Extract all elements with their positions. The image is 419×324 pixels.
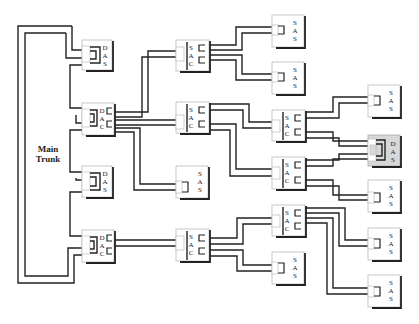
das-node-3-highlighted[interactable]: D A S <box>368 135 401 167</box>
main-trunk-label-line2: Trunk <box>36 154 60 164</box>
sas-node-5[interactable]: S A S <box>368 85 401 118</box>
svg-text:A: A <box>292 27 297 35</box>
svg-text:C: C <box>100 123 105 131</box>
svg-text:A: A <box>102 178 107 186</box>
svg-text:C: C <box>100 250 105 258</box>
sas-node-1[interactable]: S A S <box>176 166 209 199</box>
svg-text:A: A <box>102 52 107 60</box>
svg-text:S: S <box>285 161 289 169</box>
sac-node-1[interactable]: S A C <box>176 40 210 72</box>
sac-node-2[interactable]: S A C <box>176 102 210 134</box>
svg-text:S: S <box>103 186 107 194</box>
svg-text:A: A <box>292 74 297 82</box>
svg-text:S: S <box>285 209 289 217</box>
svg-text:D: D <box>102 170 107 178</box>
das-node-2[interactable]: D A S <box>82 166 113 198</box>
sas-node-8[interactable]: S A S <box>368 275 401 308</box>
svg-text:C: C <box>285 177 290 185</box>
svg-text:D: D <box>390 140 395 148</box>
main-trunk-label-line1: Main <box>38 144 59 154</box>
svg-text:S: S <box>389 295 393 303</box>
svg-text:A: A <box>284 217 289 225</box>
svg-text:A: A <box>188 52 193 60</box>
svg-text:S: S <box>389 89 393 97</box>
svg-text:S: S <box>389 184 393 192</box>
svg-text:S: S <box>293 19 297 27</box>
svg-text:S: S <box>189 233 193 241</box>
network-diagram: .ln{fill:none;stroke:#222;stroke-width:1… <box>0 0 419 324</box>
sas-node-4[interactable]: S A S <box>272 252 305 285</box>
sas-node-3[interactable]: S A S <box>272 62 305 95</box>
svg-text:A: A <box>188 114 193 122</box>
svg-text:A: A <box>99 115 104 123</box>
svg-text:C: C <box>189 122 194 130</box>
svg-text:A: A <box>390 148 395 156</box>
svg-text:D: D <box>99 234 104 242</box>
dac-node-1[interactable]: D A C <box>82 103 115 136</box>
svg-text:S: S <box>189 106 193 114</box>
svg-text:S: S <box>293 82 297 90</box>
svg-text:C: C <box>285 225 290 233</box>
svg-text:C: C <box>189 60 194 68</box>
svg-text:A: A <box>388 97 393 105</box>
svg-text:S: S <box>389 279 393 287</box>
svg-text:S: S <box>293 256 297 264</box>
svg-text:C: C <box>189 249 194 257</box>
svg-text:D: D <box>99 107 104 115</box>
dac-node-2[interactable]: D A C <box>82 230 115 263</box>
sas-node-6[interactable]: S A S <box>368 180 401 213</box>
sac-node-3[interactable]: S A C <box>176 229 210 262</box>
connection-lines <box>115 27 370 294</box>
svg-text:S: S <box>189 44 193 52</box>
svg-text:S: S <box>198 186 202 194</box>
svg-text:S: S <box>391 156 395 164</box>
sac-node-4[interactable]: S A C <box>272 110 306 142</box>
svg-text:S: S <box>389 105 393 113</box>
svg-text:A: A <box>388 192 393 200</box>
svg-text:A: A <box>197 178 202 186</box>
sas-node-7[interactable]: S A S <box>368 228 401 261</box>
svg-text:A: A <box>388 240 393 248</box>
svg-text:S: S <box>293 35 297 43</box>
svg-text:A: A <box>188 241 193 249</box>
das-node-1[interactable]: D A S <box>82 40 113 71</box>
svg-text:C: C <box>285 130 290 138</box>
sac-node-5[interactable]: S A C <box>272 157 306 190</box>
svg-text:A: A <box>292 264 297 272</box>
svg-text:S: S <box>389 248 393 256</box>
svg-text:S: S <box>389 200 393 208</box>
sac-node-6[interactable]: S A C <box>272 205 306 237</box>
svg-text:A: A <box>388 287 393 295</box>
svg-text:S: S <box>293 272 297 280</box>
svg-text:S: S <box>293 66 297 74</box>
svg-text:S: S <box>389 232 393 240</box>
svg-text:S: S <box>198 170 202 178</box>
svg-text:S: S <box>103 60 107 68</box>
svg-text:A: A <box>99 242 104 250</box>
svg-text:S: S <box>285 114 289 122</box>
svg-text:D: D <box>102 44 107 52</box>
svg-text:A: A <box>284 122 289 130</box>
svg-text:A: A <box>284 169 289 177</box>
sas-node-2[interactable]: S A S <box>272 15 305 48</box>
